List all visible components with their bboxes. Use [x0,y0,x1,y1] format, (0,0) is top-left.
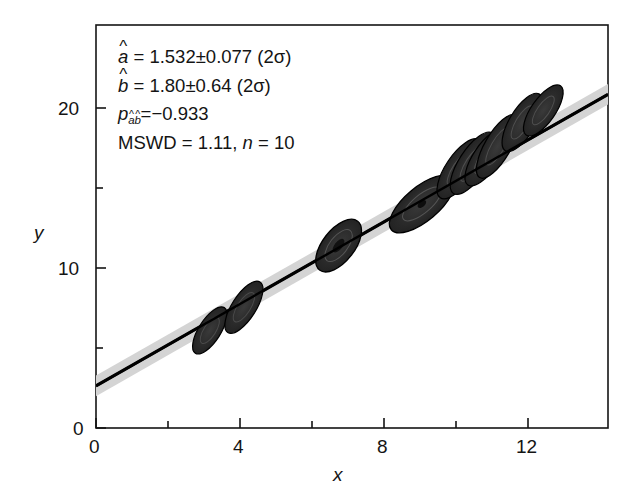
y-tick-label-10: 10 [58,258,79,280]
intercept-confidence: (2σ) [237,75,271,96]
statistics-annotation: ^a = 1.532±0.077 (2σ) ^b = 1.80±0.64 (2σ… [118,43,295,157]
hat-accent: ^ [119,61,127,90]
slope-error: 0.077 [206,46,252,67]
hat-accent: ^ [129,100,134,129]
rho-value: =−0.933 [141,103,209,124]
figure-container: 0 4 8 12 0 10 20 y x ^a = 1.532±0.077 (2… [0,0,634,498]
correlation-annotation-line: p^a^b=−0.933 [118,100,295,129]
equals-sign: = [133,46,144,67]
x-tick-label-12: 12 [516,436,537,458]
hat-accent: ^ [119,33,127,62]
n-label: n [243,132,253,153]
slope-value: 1.532 [149,46,195,67]
y-tick-label-20: 20 [58,98,79,120]
intercept-symbol: ^b [118,72,128,101]
plus-minus-sign: ± [185,75,195,96]
slope-annotation-line: ^a = 1.532±0.077 (2σ) [118,43,295,72]
x-tick-label-4: 4 [233,436,244,458]
x-tick-label-8: 8 [377,436,388,458]
intercept-error: 0.64 [196,75,232,96]
mswd-annotation-line: MSWD = 1.11, n = 10 [118,129,295,158]
intercept-value: 1.80 [149,75,185,96]
y-axis-title: y [34,222,44,244]
intercept-annotation-line: ^b = 1.80±0.64 (2σ) [118,72,295,101]
x-tick-label-0: 0 [89,436,100,458]
slope-confidence: (2σ) [257,46,291,67]
plus-minus-sign: ± [196,46,206,67]
mswd-value: = 1.11, [182,132,238,153]
y-tick-label-0: 0 [73,418,84,440]
scatter-plot [0,0,634,498]
mswd-label: MSWD [118,132,177,153]
x-axis-title: x [333,464,343,486]
n-value: = 10 [258,132,295,153]
equals-sign: = [133,75,144,96]
rho-subscript: ^a^b [128,114,140,126]
hat-accent: ^ [135,100,140,129]
rho-symbol: p [118,103,128,124]
